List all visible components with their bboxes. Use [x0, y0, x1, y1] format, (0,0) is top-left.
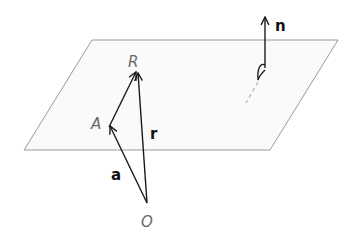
vector-label-a: a: [111, 166, 121, 184]
vector-label-n: n: [275, 17, 286, 35]
point-label-A: A: [90, 115, 101, 133]
plane-diagram: R A O a r n: [0, 0, 347, 238]
vector-label-r: r: [150, 125, 158, 143]
point-label-R: R: [128, 53, 138, 71]
plane: [24, 40, 338, 150]
point-label-O: O: [141, 213, 153, 231]
diagram-canvas: R A O a r n: [0, 0, 347, 238]
